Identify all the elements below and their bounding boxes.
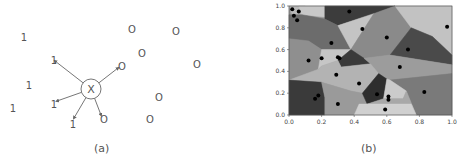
knn-diagram-canvas: X111111OOOOOOOO — [0, 0, 231, 140]
generator-point — [375, 92, 379, 96]
generator-point — [307, 59, 311, 63]
class-zero-point: O — [128, 24, 136, 35]
generator-point — [313, 97, 317, 101]
class-zero-point: O — [193, 59, 201, 70]
class-one-point: 1 — [70, 119, 76, 130]
generator-point — [334, 73, 338, 77]
generator-point — [316, 93, 320, 97]
caption-b: (b) — [361, 142, 377, 155]
x-tick-label: 0.2 — [317, 118, 327, 125]
class-zero-point: O — [118, 61, 126, 72]
class-one-point: 1 — [51, 99, 57, 110]
class-one-point: 1 — [21, 32, 27, 43]
generator-point — [422, 90, 426, 94]
generator-point — [357, 81, 361, 85]
class-zero-point: O — [138, 48, 146, 59]
generator-point — [295, 18, 299, 22]
generator-point — [406, 48, 410, 52]
generator-point — [398, 65, 402, 69]
x-tick-label: 1.0 — [447, 118, 457, 125]
panel-a-knn-diagram: X111111OOOOOOOO (a) — [0, 0, 231, 167]
x-tick-label: 0.0 — [284, 118, 294, 125]
class-one-point: 1 — [10, 103, 16, 114]
class-zero-point: O — [100, 114, 108, 125]
generator-point — [338, 56, 342, 60]
y-tick-label: 1.0 — [275, 2, 285, 9]
y-tick-label: 0.4 — [275, 67, 285, 74]
x-tick-label: 0.8 — [415, 118, 425, 125]
generator-point — [385, 36, 389, 40]
class-zero-point: O — [146, 114, 154, 125]
y-tick-label: 0.8 — [275, 24, 285, 31]
generator-point — [320, 56, 324, 60]
class-zero-point: O — [172, 26, 180, 37]
x-tick-label: 0.4 — [349, 118, 359, 125]
generator-point — [386, 98, 390, 102]
voronoi-chart: 0.00.20.40.60.81.00.00.20.40.60.81.0 — [231, 0, 463, 140]
y-tick-label: 0.2 — [275, 89, 285, 96]
panel-b-voronoi-plot: 0.00.20.40.60.81.00.00.20.40.60.81.0 (b) — [231, 0, 463, 167]
query-label: X — [87, 83, 95, 96]
generator-point — [445, 25, 449, 29]
x-tick-label: 0.6 — [382, 118, 392, 125]
generator-point — [329, 41, 333, 45]
y-tick-label: 0.6 — [275, 46, 285, 53]
class-one-point: 1 — [26, 80, 32, 91]
generator-point — [336, 102, 340, 106]
generator-point — [297, 9, 301, 13]
generator-point — [347, 9, 351, 13]
generator-point — [290, 7, 294, 11]
generator-point — [360, 27, 364, 31]
generator-point — [383, 108, 387, 112]
y-tick-label: 0.0 — [275, 111, 285, 118]
caption-a: (a) — [94, 142, 109, 155]
class-zero-point: O — [155, 92, 163, 103]
voronoi-cell — [289, 80, 325, 115]
generator-point — [292, 14, 296, 18]
class-one-point: 1 — [51, 55, 57, 66]
